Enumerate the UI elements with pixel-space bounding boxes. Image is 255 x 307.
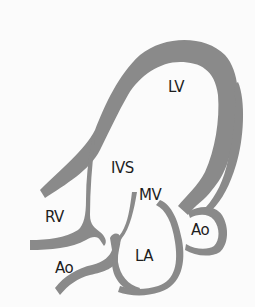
label-right-ventricle: RV [45,210,64,225]
mitral-valve-leaflet [112,192,140,294]
label-aorta-right: Ao [191,223,209,238]
label-aorta-left: Ao [55,261,73,276]
heart-walls-graphic [0,0,255,307]
label-mitral-valve: MV [139,188,161,203]
label-left-ventricle: LV [168,80,184,95]
label-left-atrium: LA [135,249,153,264]
label-interventricular-septum: IVS [111,161,134,176]
heart-diagram: LV IVS MV RV LA Ao Ao [0,0,255,307]
